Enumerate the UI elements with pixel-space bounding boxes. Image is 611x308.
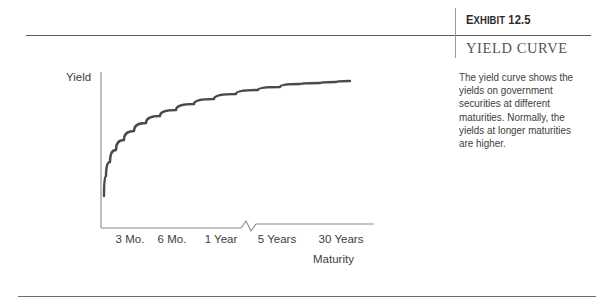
x-tick-30-years: 30 Years bbox=[319, 233, 364, 245]
exhibit-number: EXHIBIT 12.5 bbox=[466, 13, 531, 27]
x-tick-3-mo: 3 Mo. bbox=[116, 233, 145, 245]
footer-rule bbox=[18, 296, 596, 297]
x-axis-break-icon bbox=[241, 221, 259, 231]
exhibit-number-value: 12.5 bbox=[508, 13, 530, 27]
exhibit-number-rest: XHIBIT bbox=[474, 14, 506, 26]
header-vertical-divider bbox=[455, 8, 456, 58]
exhibit-caption: The yield curve shows the yields on gove… bbox=[459, 71, 583, 150]
yield-curve-line bbox=[104, 81, 350, 196]
x-tick-1-year: 1 Year bbox=[205, 233, 238, 245]
yield-curve-chart: Yield Maturity 3 Mo. 6 Mo. 1 Year 5 Year… bbox=[0, 0, 440, 290]
x-tick-6-mo: 6 Mo. bbox=[158, 233, 187, 245]
exhibit-figure: EXHIBIT 12.5 YIELD CURVE The yield curve… bbox=[0, 0, 611, 308]
x-tick-5-years: 5 Years bbox=[258, 233, 296, 245]
x-axis-tick-labels: 3 Mo. 6 Mo. 1 Year 5 Years 30 Years bbox=[0, 233, 440, 249]
exhibit-title: YIELD CURVE bbox=[466, 40, 568, 57]
